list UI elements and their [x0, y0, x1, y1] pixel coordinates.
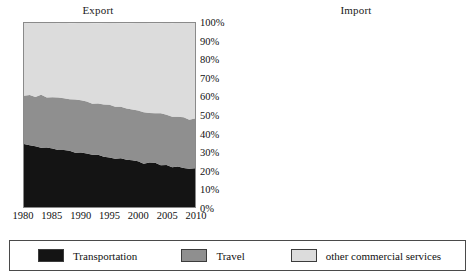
- x-tick-label: 2005: [157, 210, 178, 221]
- x-tick-label: 2000: [128, 210, 149, 221]
- y-tick-label: 50%: [200, 110, 238, 121]
- chart-title-export: Export: [0, 4, 196, 16]
- y-tick-label: 0%: [200, 203, 238, 214]
- y-tick-label: 90%: [200, 35, 238, 46]
- legend-swatch-other-commercial-services: [291, 249, 317, 262]
- x-tick-label: 1995: [99, 210, 120, 221]
- chart-legend: Transportation Travel other commercial s…: [9, 240, 466, 271]
- y-tick-label: 60%: [200, 91, 238, 102]
- stacked-area-svg-export: [24, 23, 195, 207]
- y-tick-label: 70%: [200, 72, 238, 83]
- legend-item-other-commercial-services: other commercial services: [291, 249, 441, 262]
- y-tick-label: 10%: [200, 184, 238, 195]
- legend-swatch-travel: [181, 249, 207, 262]
- x-tick-label: 1985: [41, 210, 62, 221]
- y-tick-label: 100%: [200, 17, 238, 28]
- legend-item-transportation: Transportation: [38, 249, 137, 262]
- y-tick-label: 20%: [200, 165, 238, 176]
- legend-swatch-transportation: [38, 249, 64, 262]
- chart-title-import: Import: [256, 4, 456, 16]
- y-axis-percent-labels: 0%10%20%30%40%50%60%70%80%90%100%: [200, 22, 238, 208]
- x-tick-label: 1990: [70, 210, 91, 221]
- chart-page: Export 1980198519901995200020052010 0%10…: [0, 0, 475, 279]
- y-tick-label: 40%: [200, 128, 238, 139]
- plot-area-export: [23, 22, 196, 208]
- legend-item-travel: Travel: [181, 249, 244, 262]
- y-tick-label: 80%: [200, 54, 238, 65]
- x-tick-label: 1980: [13, 210, 34, 221]
- legend-label-transportation: Transportation: [73, 250, 137, 262]
- legend-label-other-commercial-services: other commercial services: [326, 250, 441, 262]
- legend-label-travel: Travel: [216, 250, 244, 262]
- chart-panel-import: Import 1980198519901995200020052010: [239, 0, 475, 230]
- x-axis-export: 1980198519901995200020052010: [5, 210, 214, 226]
- y-tick-label: 30%: [200, 147, 238, 158]
